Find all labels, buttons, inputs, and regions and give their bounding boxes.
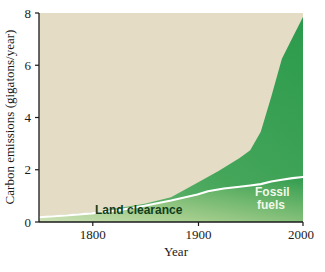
- y-tick-label-4: 4: [25, 110, 32, 125]
- fossil-fuels-label-line2: fuels: [257, 198, 285, 212]
- fossil-fuels-label-line1: Fossil: [255, 185, 290, 199]
- x-axis-title: Year: [164, 244, 189, 259]
- y-tick-label-0: 0: [25, 215, 32, 230]
- x-tick-label-1900: 1900: [186, 227, 212, 242]
- y-tick-label-8: 8: [25, 6, 32, 21]
- y-tick-label-2: 2: [25, 162, 32, 177]
- chart-canvas: 8 6 4 2 0 1800 1900 2000 Year Carbon emi…: [0, 0, 325, 272]
- land-clearance-label: Land clearance: [95, 203, 183, 217]
- x-tick-label-1800: 1800: [80, 227, 106, 242]
- y-axis-title: Carbon emissions (gigatons/year): [2, 30, 17, 205]
- y-tick-label-6: 6: [25, 58, 32, 73]
- x-tick-label-2000: 2000: [288, 227, 314, 242]
- carbon-emissions-chart: 8 6 4 2 0 1800 1900 2000 Year Carbon emi…: [0, 0, 325, 272]
